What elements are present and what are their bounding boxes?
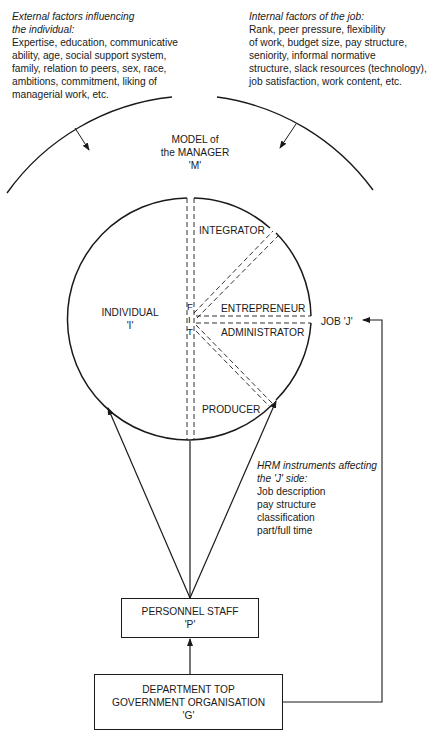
individual-symbol: 'I' [95,319,165,332]
internal-factor-line: structure, slack resources (technology), [249,62,427,75]
department-line-2: GOVERNMENT ORGANISATION [112,696,265,709]
fit-letter-t: T [187,325,193,338]
department-line-1: DEPARTMENT TOP [142,683,234,696]
personnel-staff-box: PERSONNEL STAFF 'P' [121,598,259,638]
fit-letter-f: F [187,300,193,313]
internal-factors-heading: Internal factors of the job: [249,10,364,23]
internal-factor-line: Rank, peer pressure, flexibility [249,23,385,36]
external-factors-heading-1: External factors influencing [12,10,134,23]
role-administrator: ADMINISTRATOR [221,326,304,339]
external-factor-line: managerial work, etc. [12,88,109,101]
individual-text: INDIVIDUAL [95,306,165,319]
model-line-1: MODEL of [145,133,245,146]
internal-factor-line: job satisfaction, work content, etc. [249,75,402,88]
internal-factor-line: of work, budget size, pay structure, [249,36,407,49]
hrm-item: part/full time [257,524,312,537]
role-integrator: INTEGRATOR [199,224,265,237]
hrm-item: pay structure [257,498,316,511]
external-factor-line: family, relation to peers, sex, race, [12,62,166,75]
department-line-3: 'G' [183,709,195,722]
hrm-heading-2: the 'J' side: [257,472,307,485]
department-box: DEPARTMENT TOP GOVERNMENT ORGANISATION '… [94,674,283,730]
hrm-heading-1: HRM instruments affecting [257,459,377,472]
model-line-3: 'M' [145,159,245,172]
personnel-line-1: PERSONNEL STAFF [142,605,239,618]
model-line-2: the MANAGER [145,146,245,159]
job-label: JOB 'J' [321,315,353,328]
hrm-item: classification [257,511,315,524]
role-entrepreneur: ENTREPRENEUR [221,302,305,315]
external-factors-heading-2: the individual: [12,23,74,36]
internal-factor-line: seniority, informal normative [249,49,376,62]
external-factor-line: Expertise, education, communicative [12,36,178,49]
individual-label: INDIVIDUAL 'I' [95,306,165,332]
external-factor-line: ambitions, commitment, liking of [12,75,157,88]
model-label: MODEL of the MANAGER 'M' [145,133,245,172]
role-producer: PRODUCER [202,403,260,416]
external-factor-line: ability, age, social support system, [12,49,166,62]
personnel-arrows [108,401,276,598]
personnel-line-2: 'P' [185,618,196,631]
hrm-item: Job description [257,485,326,498]
